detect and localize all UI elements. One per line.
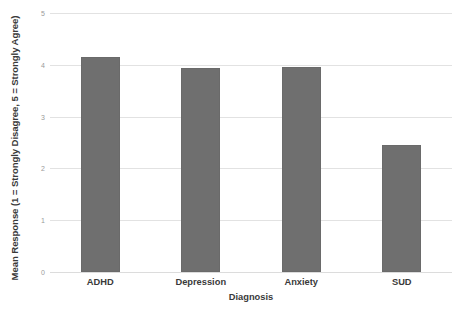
plot-area: 543210 — [50, 13, 452, 272]
gridline — [50, 13, 452, 14]
y-tick-label: 4 — [41, 61, 45, 68]
x-tick-label-adhd: ADHD — [87, 277, 114, 287]
gridline — [50, 272, 452, 273]
bar-depression — [181, 68, 220, 272]
x-axis-title: Diagnosis — [50, 292, 452, 302]
y-tick-label: 2 — [41, 165, 45, 172]
bar-anxiety — [282, 67, 321, 272]
bar-sud — [382, 145, 421, 272]
bar-adhd — [81, 57, 120, 272]
y-tick-label: 0 — [41, 269, 45, 276]
y-axis-title: Mean Response (1 = Strongly Disagree, 5 … — [6, 0, 24, 298]
x-tick-label-sud: SUD — [392, 277, 412, 287]
x-tick-label-depression: Depression — [175, 277, 226, 287]
y-tick-label: 1 — [41, 217, 45, 224]
bar-chart: Mean Response (1 = Strongly Disagree, 5 … — [0, 0, 465, 314]
x-tick-label-anxiety: Anxiety — [284, 277, 318, 287]
y-tick-label: 3 — [41, 113, 45, 120]
y-tick-label: 5 — [41, 10, 45, 17]
